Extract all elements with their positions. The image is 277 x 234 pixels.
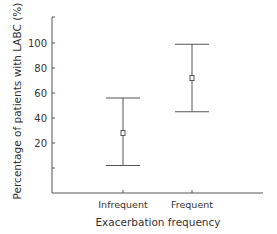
x-axis: InfrequentFrequent (52, 190, 263, 210)
x-axis-title: Exacerbation frequency (95, 216, 220, 228)
y-axis-title: Percentage of patients with LABC (%) (11, 3, 23, 200)
y-tick-label: 100 (28, 38, 47, 49)
y-axis: 20406080100 (28, 17, 55, 193)
y-tick-label: 40 (34, 113, 47, 124)
error-bars (106, 44, 209, 165)
error-bar-frequent (175, 44, 209, 112)
y-tick-label: 60 (34, 88, 47, 99)
x-tick-label: Infrequent (98, 199, 148, 210)
y-ticks: 20406080100 (28, 38, 55, 169)
mean-marker (190, 76, 194, 81)
x-tick-label: Frequent (171, 199, 213, 210)
y-tick-label: 80 (34, 63, 47, 74)
error-bar-chart: 20406080100 InfrequentFrequent Percentag… (0, 0, 277, 234)
y-tick-label: 20 (34, 138, 47, 149)
error-bar-infrequent (106, 98, 140, 166)
mean-marker (121, 131, 125, 136)
